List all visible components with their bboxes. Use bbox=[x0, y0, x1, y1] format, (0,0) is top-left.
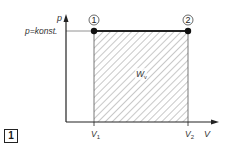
y-axis-label: p bbox=[56, 13, 62, 23]
x-axis-arrow-icon bbox=[211, 120, 219, 125]
pressure-constant-label: p=konst. bbox=[24, 26, 57, 36]
v2-label: V2 bbox=[185, 129, 195, 140]
x-axis-label: V bbox=[204, 129, 211, 139]
y-axis-arrow-icon bbox=[64, 14, 69, 22]
point-2-label: 2 bbox=[185, 15, 190, 25]
figure-number-badge: 1 bbox=[4, 129, 18, 143]
point-1-marker bbox=[91, 28, 97, 34]
point-1-label: 1 bbox=[91, 15, 96, 25]
v1-label: V1 bbox=[91, 129, 101, 140]
pv-diagram: 1 2 p V p=konst. V1 V2 Wv bbox=[0, 0, 231, 146]
point-2-marker bbox=[185, 28, 191, 34]
